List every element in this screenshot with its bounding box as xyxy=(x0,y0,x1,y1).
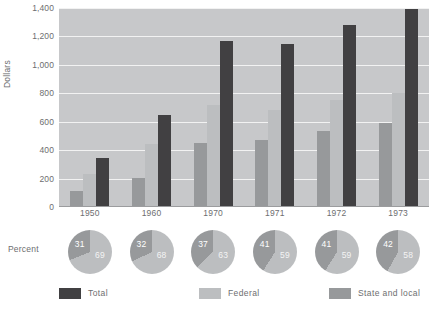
x-tick-label: 1970 xyxy=(182,208,244,222)
bar-fed xyxy=(145,144,158,207)
pie-cell: 4258 xyxy=(367,228,429,276)
y-tick-label: 0 xyxy=(8,202,54,212)
y-tick-label: 200 xyxy=(8,174,54,184)
legend-label: Federal xyxy=(228,288,260,298)
bar-sl xyxy=(317,131,330,207)
pie-chart: 3169 xyxy=(68,230,112,274)
bar-group xyxy=(244,8,306,207)
y-axis-tick-labels: 1,4001,2001,0008006004002000 xyxy=(8,0,54,222)
x-tick-label: 1950 xyxy=(59,208,121,222)
pie-chart: 4258 xyxy=(376,230,420,274)
pie-cell: 3268 xyxy=(121,228,183,276)
bar-fed xyxy=(392,93,405,207)
pie-value-federal: 63 xyxy=(218,250,228,260)
bar-total xyxy=(158,115,171,207)
pie-value-state-local: 41 xyxy=(260,239,270,249)
bar-group xyxy=(367,8,429,207)
x-tick-label: 1973 xyxy=(367,208,429,222)
pie-value-federal: 59 xyxy=(280,250,290,260)
bar-total xyxy=(96,158,109,207)
bar-total xyxy=(405,9,418,207)
pie-cell: 3763 xyxy=(182,228,244,276)
y-tick-label: 800 xyxy=(8,88,54,98)
pie-chart: 4159 xyxy=(315,230,359,274)
x-axis-tick-labels: 195019601970197119721973 xyxy=(59,208,429,222)
pie-value-state-local: 42 xyxy=(383,239,393,249)
pie-chart-row: 316932683763415941594258 xyxy=(59,228,429,276)
bar-group xyxy=(59,8,121,207)
legend-swatch-total xyxy=(59,288,81,299)
bar-sl xyxy=(70,191,83,207)
legend-item: State and local xyxy=(329,288,420,299)
y-tick-label: 600 xyxy=(8,117,54,127)
plot-area xyxy=(59,8,429,207)
bar-fed xyxy=(330,100,343,207)
x-tick-label: 1972 xyxy=(306,208,368,222)
pie-chart: 4159 xyxy=(253,230,297,274)
bar-chart: Dollars 1,4001,2001,0008006004002000 195… xyxy=(0,0,435,222)
pie-cell: 3169 xyxy=(59,228,121,276)
pie-value-state-local: 32 xyxy=(137,239,147,249)
pie-value-federal: 68 xyxy=(157,250,167,260)
pie-value-federal: 69 xyxy=(95,250,105,260)
pie-value-state-local: 31 xyxy=(75,239,85,249)
legend-item: Total xyxy=(59,288,199,299)
bar-sl xyxy=(255,140,268,207)
pie-chart: 3268 xyxy=(130,230,174,274)
chart-figure: Dollars 1,4001,2001,0008006004002000 195… xyxy=(0,0,435,310)
pie-cell: 4159 xyxy=(244,228,306,276)
bar-fed xyxy=(83,174,96,207)
bar-fed xyxy=(207,105,220,207)
bar-sl xyxy=(194,143,207,207)
x-tick-label: 1971 xyxy=(244,208,306,222)
pie-value-federal: 58 xyxy=(403,250,413,260)
legend-label: Total xyxy=(88,288,108,298)
percent-axis-label: Percent xyxy=(8,244,39,254)
y-tick-label: 1,000 xyxy=(8,60,54,70)
bar-groups xyxy=(59,8,429,207)
bar-group xyxy=(121,8,183,207)
bar-sl xyxy=(379,123,392,207)
bar-sl xyxy=(132,178,145,207)
bar-total xyxy=(343,25,356,207)
y-tick-label: 1,400 xyxy=(8,3,54,13)
legend-label: State and local xyxy=(358,288,420,298)
pie-value-federal: 59 xyxy=(342,250,352,260)
legend-swatch-fed xyxy=(199,288,221,299)
bar-group xyxy=(306,8,368,207)
bar-group xyxy=(182,8,244,207)
pie-chart: 3763 xyxy=(191,230,235,274)
bar-total xyxy=(220,41,233,207)
y-tick-label: 400 xyxy=(8,145,54,155)
y-tick-label: 1,200 xyxy=(8,31,54,41)
pie-value-state-local: 37 xyxy=(198,239,208,249)
legend-swatch-sl xyxy=(329,288,351,299)
chart-legend: TotalFederalState and local xyxy=(59,284,429,302)
x-tick-label: 1960 xyxy=(121,208,183,222)
bar-fed xyxy=(268,110,281,207)
pie-cell: 4159 xyxy=(306,228,368,276)
bar-total xyxy=(281,44,294,207)
pie-value-state-local: 41 xyxy=(322,239,332,249)
legend-item: Federal xyxy=(199,288,329,299)
x-axis-line xyxy=(59,206,429,207)
